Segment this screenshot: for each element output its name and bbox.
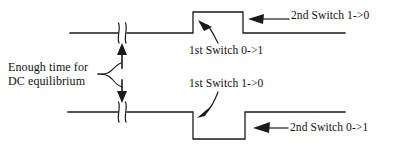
arrowhead-second-switch-high-low [248, 14, 264, 24]
equilibrium-brace [98, 63, 121, 74]
label-first-switch-low-high: 1st Switch 0->1 [189, 44, 263, 58]
timing-diagram-figure: Enough time for DC equilibrium 2nd Switc… [0, 0, 399, 149]
break-mark-bottom-icon [118, 102, 126, 122]
arrowhead-second-switch-low-high [253, 122, 270, 133]
label-second-switch-low-high: 2nd Switch 0->1 [290, 121, 368, 135]
equilibrium-down-arrowhead [117, 91, 127, 103]
arrowhead-first-switch-high-low [197, 106, 211, 118]
equilibrium-up-arrowhead [117, 43, 127, 55]
equilibrium-brace-lower [98, 74, 122, 87]
label-first-switch-high-low: 1st Switch 1->0 [189, 77, 263, 91]
equilibrium-text-line-1: Enough time for [8, 60, 88, 74]
break-mark-top-icon [118, 23, 126, 43]
equilibrium-text-line-2: DC equilibrium [8, 74, 88, 88]
label-second-switch-high-low: 2nd Switch 1->0 [291, 9, 369, 23]
label-enough-time-dc-equilibrium: Enough time for DC equilibrium [8, 60, 88, 88]
